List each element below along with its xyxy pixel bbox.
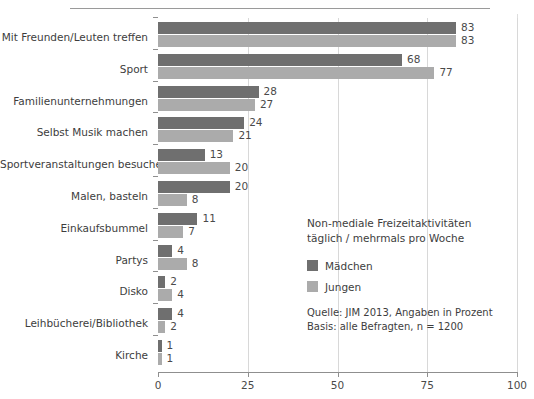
legend-swatch-icon-girls: [307, 260, 318, 271]
bar-boys: [158, 130, 233, 142]
row-tick: [153, 303, 158, 304]
x-tick-label-0: 0: [138, 379, 178, 391]
legend-item-girls[interactable]: Mädchen: [307, 257, 507, 274]
bar-value-label: 7: [188, 225, 195, 237]
category-label: Sportveranstaltungen besuchen: [0, 158, 148, 170]
row-tick: [153, 17, 158, 18]
row-tick: [153, 112, 158, 113]
bar-boys: [158, 99, 255, 111]
bar-girls: [158, 86, 259, 98]
bar-girls: [158, 308, 172, 320]
bar-girls: [158, 245, 172, 257]
legend-swatch-icon-boys: [307, 281, 318, 292]
bar-value-label: 28: [264, 85, 277, 97]
legend-title: Non-mediale Freizeitaktivitäten täglich …: [307, 216, 507, 246]
bar-value-label: 13: [210, 148, 223, 160]
bar-value-label: 20: [235, 180, 248, 192]
bar-value-label: 2: [170, 320, 177, 332]
bar-boys: [158, 162, 230, 174]
legend-item-boys[interactable]: Jungen: [307, 278, 507, 295]
x-tick-label-100: 100: [497, 379, 534, 391]
category-label: Mit Freunden/Leuten treffen: [0, 31, 148, 43]
category-label: Selbst Musik machen: [0, 126, 148, 138]
x-tick-label-25: 25: [228, 379, 268, 391]
x-tick-label-75: 75: [407, 379, 447, 391]
bar-value-label: 20: [235, 161, 248, 173]
top-divider-rule: [70, 8, 490, 9]
legend-label-girls: Mädchen: [325, 260, 373, 272]
x-tick-label-50: 50: [318, 379, 358, 391]
bar-value-label: 4: [177, 288, 184, 300]
bar-value-label: 11: [202, 212, 215, 224]
x-tick-100: [517, 372, 518, 377]
bar-value-label: 8: [192, 257, 199, 269]
legend-label-boys: Jungen: [325, 281, 361, 293]
category-label: Malen, basteln: [0, 190, 148, 202]
bar-value-label: 21: [238, 129, 251, 141]
bar-value-label: 4: [177, 307, 184, 319]
bar-boys: [158, 353, 162, 365]
row-tick: [153, 335, 158, 336]
bar-girls: [158, 340, 162, 352]
category-label: Sport: [0, 63, 148, 75]
bar-value-label: 1: [167, 339, 174, 351]
x-tick-50: [338, 372, 339, 377]
bar-boys: [158, 226, 183, 238]
bar-boys: [158, 35, 456, 47]
bar-value-label: 83: [461, 34, 474, 46]
bar-value-label: 4: [177, 244, 184, 256]
row-tick: [153, 144, 158, 145]
row-tick: [153, 49, 158, 50]
legend-source: Quelle: JIM 2013, Angaben in Prozent Bas…: [307, 306, 507, 334]
category-label: Familienunternehmungen: [0, 95, 148, 107]
category-label: Disko: [0, 285, 148, 297]
category-label: Partys: [0, 254, 148, 266]
legend-title-line2: täglich / mehrmals pro Woche: [307, 231, 507, 246]
bar-girls: [158, 213, 197, 225]
x-tick-25: [248, 372, 249, 377]
bar-girls: [158, 22, 456, 34]
bar-value-label: 24: [249, 116, 262, 128]
x-tick-75: [427, 372, 428, 377]
bar-boys: [158, 289, 172, 301]
gridline-100: [517, 18, 518, 372]
bar-value-label: 27: [260, 98, 273, 110]
category-label: Leihbücherei/Bibliothek: [0, 317, 148, 329]
bar-value-label: 83: [461, 21, 474, 33]
row-tick: [153, 81, 158, 82]
legend-title-line1: Non-mediale Freizeitaktivitäten: [307, 216, 507, 231]
bar-girls: [158, 149, 205, 161]
legend-items: Mädchen Jungen: [307, 257, 507, 295]
source-line1: Quelle: JIM 2013, Angaben in Prozent: [307, 306, 507, 320]
row-tick: [153, 271, 158, 272]
bar-girls: [158, 181, 230, 193]
source-line2: Basis: alle Befragten, n = 1200: [307, 320, 507, 334]
chart-legend: Non-mediale Freizeitaktivitäten täglich …: [307, 216, 507, 334]
x-tick-0: [158, 372, 159, 377]
bar-girls: [158, 54, 402, 66]
category-label: Kirche: [0, 349, 148, 361]
bar-girls: [158, 276, 165, 288]
bar-value-label: 2: [170, 275, 177, 287]
bar-value-label: 77: [439, 66, 452, 78]
row-tick: [153, 176, 158, 177]
row-tick: [153, 240, 158, 241]
bar-boys: [158, 67, 434, 79]
bar-boys: [158, 194, 187, 206]
chart-figure: 0255075100 Mit Freunden/Leuten treffen83…: [0, 0, 534, 399]
category-label: Einkaufsbummel: [0, 222, 148, 234]
bar-value-label: 8: [192, 193, 199, 205]
bar-value-label: 68: [407, 53, 420, 65]
row-tick: [153, 208, 158, 209]
bar-girls: [158, 117, 244, 129]
bar-value-label: 1: [167, 352, 174, 364]
bar-boys: [158, 321, 165, 333]
bar-boys: [158, 258, 187, 270]
